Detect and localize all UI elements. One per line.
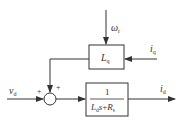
vd-label: vd [9,85,16,97]
sum-sign-top: + [56,83,61,92]
summing-junction [44,93,56,105]
tf-denominator: Lds+Rs [90,102,115,113]
omega-label: ωr [111,22,120,34]
tf-numerator: 1 [105,87,110,97]
sum-sign-left: + [37,87,42,96]
block-diagram: ωr Lq iq + + vd 1 Lds+Rs id [0,0,189,123]
iq-label: iq [150,43,156,55]
id-label: id [160,83,166,95]
